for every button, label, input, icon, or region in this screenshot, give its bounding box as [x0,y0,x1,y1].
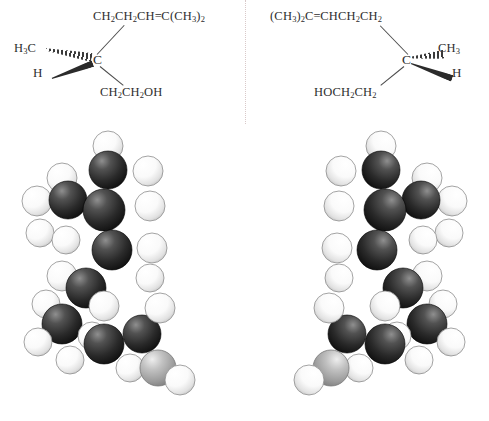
atom-h [133,156,163,186]
left-stereocenter-label: C [93,53,102,67]
left-bond-to-hydroxyethyl [100,66,124,86]
atom-h [89,291,119,321]
right-top-chain-label: (CH3)2C=CHCH2CH2 [270,10,382,23]
atom-c [92,230,132,270]
atom-c [84,324,124,364]
atom-c [49,181,87,219]
atom-h [52,226,80,254]
atom-h [324,191,354,221]
model-right-svg [245,128,489,421]
atom-h [405,346,433,374]
atom-c [83,189,125,231]
atom-h [326,156,356,186]
atom-h [325,264,353,292]
right-bond-to-hydroxyethyl [380,66,404,86]
model-left-svg [0,128,244,421]
atom-h [56,346,84,374]
atom-h [409,226,437,254]
right-hydroxyethyl-label: HOCH2CH2 [314,86,376,99]
left-hashed-wedge-bond [45,45,93,62]
atom-h [437,328,465,356]
atom-h [435,219,463,247]
atom-h [145,293,175,323]
atom-h [137,233,167,263]
left-hydroxyethyl-label: CH2CH2OH [100,86,163,99]
left-hydrogen-label: H [33,66,43,79]
structure-right: (CH3)2C=CHCH2CH2 CH3 C H HOCH2CH2 [244,0,489,124]
right-hydrogen-label: H [452,66,462,79]
atom-h [135,191,165,221]
figure-canvas: CH2CH2CH=C(CH3)2 H3C C H CH2CH2OH (CH3)2… [0,0,489,421]
structure-left: CH2CH2CH=C(CH3)2 H3C C H CH2CH2OH [0,0,245,124]
atom-h [24,328,52,356]
atom-c [364,189,406,231]
atom-c [402,181,440,219]
atom-c [357,230,397,270]
atom-h [322,233,352,263]
left-bold-wedge-bond [50,60,94,82]
right-bold-wedge-bond [410,60,454,82]
right-stereocenter-label: C [402,53,411,67]
left-methyl-label: H3C [14,42,36,55]
space-filling-model-left [0,128,244,421]
atom-h [314,293,344,323]
atom-h [26,219,54,247]
atom-h [136,264,164,292]
atom-c [89,151,127,189]
atom-c [365,324,405,364]
space-filling-model-right [245,128,489,421]
left-bond-to-top-chain [97,25,125,55]
atom-h [165,365,195,395]
right-bond-to-top-chain [380,25,409,54]
atom-h [22,186,52,216]
atom-h [294,365,324,395]
left-top-chain-label: CH2CH2CH=C(CH3)2 [93,10,205,23]
right-hashed-wedge-bond [412,50,445,62]
atom-h [370,291,400,321]
atom-c [362,151,400,189]
atom-h [437,186,467,216]
